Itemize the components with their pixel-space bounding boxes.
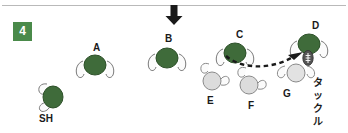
- player-label-e: E: [207, 95, 214, 106]
- player-label-sh: SH: [39, 113, 53, 124]
- step-number-badge: 4: [13, 22, 32, 41]
- arrow-down-icon: [163, 4, 185, 26]
- player-label-c: C: [236, 29, 243, 40]
- player-label-b: B: [165, 33, 172, 44]
- tackle-annotation: タ ッ ク ル: [311, 76, 325, 128]
- player-marker-a: [74, 52, 120, 86]
- player-label-g: G: [283, 88, 291, 99]
- tackle-char-1: タ: [311, 76, 325, 89]
- player-label-d: D: [312, 20, 319, 31]
- player-label-a: A: [93, 42, 100, 53]
- player-label-f: F: [248, 100, 254, 111]
- pass-arrow-c-to-d: [224, 44, 320, 74]
- player-marker-b: [146, 45, 192, 79]
- tackle-char-4: ル: [311, 115, 325, 128]
- tackle-char-3: ク: [311, 102, 325, 115]
- play-diagram: 4 SH A B C: [0, 0, 348, 133]
- tackle-char-2: ッ: [311, 89, 325, 102]
